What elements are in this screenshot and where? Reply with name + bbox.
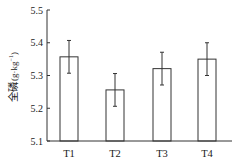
y-tick-label: 5.5 <box>31 5 44 16</box>
y-tick-label: 5.4 <box>31 37 44 48</box>
y-axis: 5.15.25.35.45.5 <box>31 5 51 147</box>
y-axis-label: 全磷(g·kg−1) <box>7 52 19 102</box>
bar-t4 <box>198 43 216 141</box>
x-tick-label: T1 <box>63 148 75 159</box>
bar-t1 <box>60 40 78 141</box>
bar-t2 <box>106 74 124 141</box>
x-tick-label: T4 <box>201 148 213 159</box>
svg-text:全磷(g·kg−1): 全磷(g·kg−1) <box>7 52 19 102</box>
y-tick-label: 5.3 <box>31 70 44 81</box>
bar-chart: 5.15.25.35.45.5 T1T2T3T4 全磷(g·kg−1) <box>0 0 234 164</box>
y-tick-label: 5.1 <box>31 136 44 147</box>
x-tick-label: T2 <box>109 148 121 159</box>
x-tick-label: T3 <box>156 148 168 159</box>
x-axis: T1T2T3T4 <box>47 141 232 159</box>
bars <box>60 40 216 141</box>
y-tick-label: 5.2 <box>31 103 44 114</box>
bar-t3 <box>153 52 171 141</box>
